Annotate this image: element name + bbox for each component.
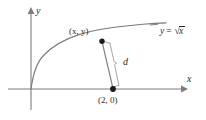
square-root-icon: √x — [174, 26, 184, 37]
curve-point-label: (x, y) — [69, 27, 89, 36]
y-axis-label: y — [36, 6, 40, 16]
y-axis — [28, 7, 35, 110]
equation-lhs: y — [160, 26, 164, 36]
x-axis-label: x — [187, 74, 191, 84]
x-axis — [8, 86, 188, 93]
curve-equation-label: y=√x — [160, 26, 183, 37]
equation-equals: = — [166, 26, 171, 36]
sqrt-curve — [31, 23, 166, 89]
x-axis-arrowhead — [181, 86, 188, 93]
distance-label: d — [123, 57, 128, 67]
y-axis-arrowhead — [28, 7, 35, 14]
axis-point-label: (2, 0) — [98, 96, 118, 105]
vinculum — [179, 26, 185, 27]
figure-container: y x (x, y) (2, 0) d y=√x — [0, 0, 206, 120]
curve-point-marker — [99, 39, 104, 44]
equation-leader-line — [150, 24, 158, 25]
radicand: x — [179, 26, 183, 36]
axis-point-marker — [110, 86, 116, 92]
